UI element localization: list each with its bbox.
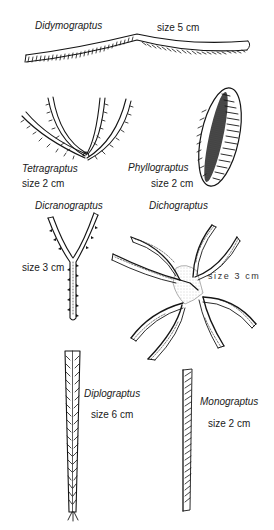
phyllograptus-drawing [191, 84, 249, 190]
diplograptus-drawing [65, 351, 80, 521]
diplograptus-size: size 6 cm [91, 409, 133, 421]
tetragraptus-drawing [21, 97, 133, 160]
dicranograptus-name: Dicranograptus [35, 200, 103, 212]
dichograptus-drawing [112, 225, 256, 360]
graptolite-plate: Didymograptus size 5 cm Tetragraptus siz… [0, 0, 274, 530]
tetragraptus-name: Tetragraptus [22, 163, 78, 175]
monograptus-drawing [183, 369, 192, 511]
diplograptus-name: Diplograptus [84, 388, 140, 400]
dicranograptus-size: size 3 cm [22, 262, 64, 274]
dichograptus-size: size 3 cm [208, 270, 260, 282]
phyllograptus-size: size 2 cm [151, 178, 193, 190]
didymograptus-name: Didymograptus [35, 20, 102, 32]
didymograptus-size: size 5 cm [157, 22, 199, 34]
didymograptus-drawing [25, 34, 250, 62]
monograptus-name: Monograptus [200, 396, 258, 408]
monograptus-size: size 2 cm [208, 418, 250, 430]
tetragraptus-size: size 2 cm [22, 178, 64, 190]
dichograptus-name: Dichograptus [149, 200, 208, 212]
phyllograptus-name: Phyllograptus [128, 162, 189, 174]
